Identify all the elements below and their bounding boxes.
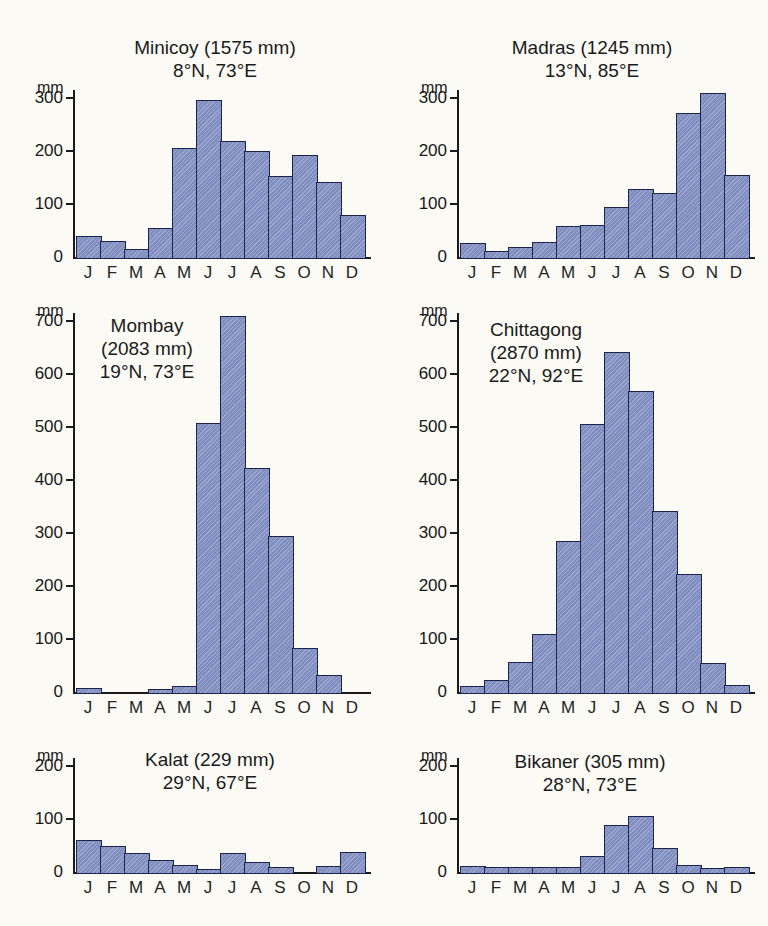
y-tick-mombay-500 xyxy=(66,426,74,428)
y-tick-mombay-700 xyxy=(66,320,74,322)
x-tick-label-chittagong-mar: M xyxy=(508,699,532,717)
y-axis-line-madras xyxy=(457,90,459,259)
x-tick-label-bikaner-aug: A xyxy=(628,879,652,897)
x-tick-label-minicoy-oct: O xyxy=(292,264,316,282)
y-tick-mombay-300 xyxy=(66,532,74,534)
y-axis-line-kalat xyxy=(73,758,75,874)
y-tick-bikaner-200 xyxy=(450,765,458,767)
y-tick-label-mombay-500: 500 xyxy=(15,417,63,437)
y-tick-minicoy-200 xyxy=(66,150,74,152)
bar-minicoy-sep xyxy=(268,176,294,259)
y-tick-label-bikaner-0: 0 xyxy=(399,862,447,882)
y-tick-minicoy-300 xyxy=(66,97,74,99)
bar-kalat-apr xyxy=(148,860,174,874)
bar-kalat-jun xyxy=(196,869,222,874)
bar-chittagong-mar xyxy=(508,662,534,694)
bar-mombay-aug xyxy=(244,468,270,694)
bar-bikaner-feb xyxy=(484,867,510,874)
bar-chittagong-feb xyxy=(484,680,510,694)
x-tick-label-chittagong-aug: A xyxy=(628,699,652,717)
x-tick-label-bikaner-jul: J xyxy=(604,879,628,897)
bar-minicoy-jul xyxy=(220,141,246,259)
bar-chittagong-sep xyxy=(652,511,678,694)
bar-mombay-jul xyxy=(220,316,246,694)
y-tick-chittagong-700 xyxy=(450,320,458,322)
chart-title-madras-line2: 13°N, 85°E xyxy=(432,59,752,82)
bar-bikaner-sep xyxy=(652,848,678,874)
x-tick-label-madras-nov: N xyxy=(700,264,724,282)
chart-title-mombay-line2: (2083 mm) xyxy=(0,337,307,360)
y-tick-label-chittagong-400: 400 xyxy=(399,470,447,490)
bar-bikaner-jun xyxy=(580,856,606,874)
bar-minicoy-apr xyxy=(148,228,174,259)
x-tick-label-mombay-mar: M xyxy=(124,699,148,717)
x-tick-label-minicoy-sep: S xyxy=(268,264,292,282)
bar-mombay-sep xyxy=(268,536,294,694)
x-tick-label-kalat-nov: N xyxy=(316,879,340,897)
bar-mombay-jan xyxy=(76,688,102,694)
y-tick-label-minicoy-200: 200 xyxy=(15,141,63,161)
y-axis-line-minicoy xyxy=(73,90,75,259)
x-tick-label-chittagong-jan: J xyxy=(460,699,484,717)
x-tick-label-madras-sep: S xyxy=(652,264,676,282)
x-tick-label-mombay-jun: J xyxy=(196,699,220,717)
bar-mombay-may xyxy=(172,686,198,694)
x-tick-label-mombay-feb: F xyxy=(100,699,124,717)
x-tick-label-kalat-may: M xyxy=(172,879,196,897)
bar-madras-jan xyxy=(460,243,486,259)
y-tick-label-bikaner-100: 100 xyxy=(399,809,447,829)
x-tick-label-minicoy-feb: F xyxy=(100,264,124,282)
x-tick-label-mombay-may: M xyxy=(172,699,196,717)
y-tick-label-mombay-200: 200 xyxy=(15,576,63,596)
x-tick-label-bikaner-oct: O xyxy=(676,879,700,897)
y-tick-mombay-600 xyxy=(66,373,74,375)
y-tick-chittagong-400 xyxy=(450,479,458,481)
y-tick-mombay-400 xyxy=(66,479,74,481)
x-tick-label-kalat-apr: A xyxy=(148,879,172,897)
x-tick-label-kalat-sep: S xyxy=(268,879,292,897)
x-tick-label-kalat-oct: O xyxy=(292,879,316,897)
y-tick-label-kalat-200: 200 xyxy=(15,756,63,776)
y-tick-label-chittagong-300: 300 xyxy=(399,523,447,543)
y-tick-label-chittagong-200: 200 xyxy=(399,576,447,596)
x-tick-label-minicoy-jun: J xyxy=(196,264,220,282)
y-tick-minicoy-100 xyxy=(66,203,74,205)
x-tick-label-mombay-aug: A xyxy=(244,699,268,717)
x-tick-label-madras-feb: F xyxy=(484,264,508,282)
y-tick-label-mombay-400: 400 xyxy=(15,470,63,490)
x-tick-label-minicoy-dec: D xyxy=(340,264,364,282)
x-tick-label-mombay-nov: N xyxy=(316,699,340,717)
x-tick-label-kalat-feb: F xyxy=(100,879,124,897)
x-tick-label-mombay-apr: A xyxy=(148,699,172,717)
x-tick-label-madras-aug: A xyxy=(628,264,652,282)
chart-title-bikaner: Bikaner (305 mm)28°N, 73°E xyxy=(430,750,750,796)
x-tick-label-bikaner-may: M xyxy=(556,879,580,897)
x-tick-label-bikaner-apr: A xyxy=(532,879,556,897)
x-tick-label-bikaner-sep: S xyxy=(652,879,676,897)
bar-chittagong-jul xyxy=(604,352,630,694)
x-tick-label-chittagong-sep: S xyxy=(652,699,676,717)
bar-chittagong-may xyxy=(556,541,582,694)
x-tick-label-madras-jul: J xyxy=(604,264,628,282)
bar-chittagong-apr xyxy=(532,634,558,694)
bar-bikaner-mar xyxy=(508,867,534,874)
x-tick-label-minicoy-mar: M xyxy=(124,264,148,282)
bar-madras-feb xyxy=(484,251,510,259)
y-tick-label-mombay-600: 600 xyxy=(15,364,63,384)
y-tick-madras-100 xyxy=(450,203,458,205)
y-axis-line-mombay xyxy=(73,313,75,694)
y-tick-madras-300 xyxy=(450,97,458,99)
x-tick-label-minicoy-may: M xyxy=(172,264,196,282)
bar-kalat-may xyxy=(172,865,198,874)
bar-madras-mar xyxy=(508,247,534,259)
bar-kalat-sep xyxy=(268,867,294,874)
bar-chittagong-nov xyxy=(700,663,726,694)
bar-bikaner-oct xyxy=(676,865,702,874)
x-tick-label-kalat-dec: D xyxy=(340,879,364,897)
bar-madras-sep xyxy=(652,193,678,259)
bar-mombay-apr xyxy=(148,689,174,694)
bar-minicoy-jan xyxy=(76,236,102,259)
x-tick-label-mombay-oct: O xyxy=(292,699,316,717)
bar-bikaner-dec xyxy=(724,867,750,874)
bar-bikaner-jan xyxy=(460,866,486,874)
